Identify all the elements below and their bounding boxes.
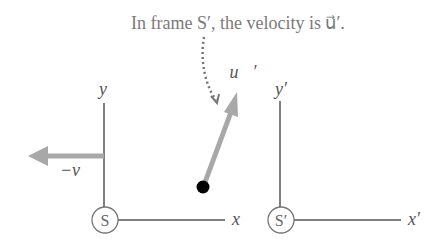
s-y-axis-label: y bbox=[97, 79, 107, 99]
caption-text: In frame S′, the velocity is u⃗′. bbox=[131, 13, 345, 33]
u-prime-arrowhead-icon bbox=[224, 92, 238, 117]
u-prime-label: u⃗′ bbox=[230, 62, 258, 82]
moving-object: u⃗′ bbox=[197, 62, 258, 194]
object-dot bbox=[197, 181, 210, 194]
s-prime-y-axis-label: y′ bbox=[273, 79, 288, 99]
frame-s-prime: S′ y′ x′ bbox=[268, 79, 421, 233]
minus-v-arrowhead-icon bbox=[28, 146, 48, 166]
u-prime-arrow bbox=[204, 112, 231, 185]
s-prime-x-axis-label: x′ bbox=[407, 209, 421, 229]
s-x-axis-label: x bbox=[231, 209, 240, 229]
s-prime-frame-label: S′ bbox=[275, 212, 287, 229]
dotted-callout-arrow bbox=[203, 37, 219, 103]
frame-s: S y x −v bbox=[28, 79, 240, 233]
minus-v-label: −v bbox=[60, 160, 80, 180]
s-frame-label: S bbox=[101, 212, 110, 229]
relative-velocity-diagram: In frame S′, the velocity is u⃗′. S y x … bbox=[0, 0, 443, 248]
